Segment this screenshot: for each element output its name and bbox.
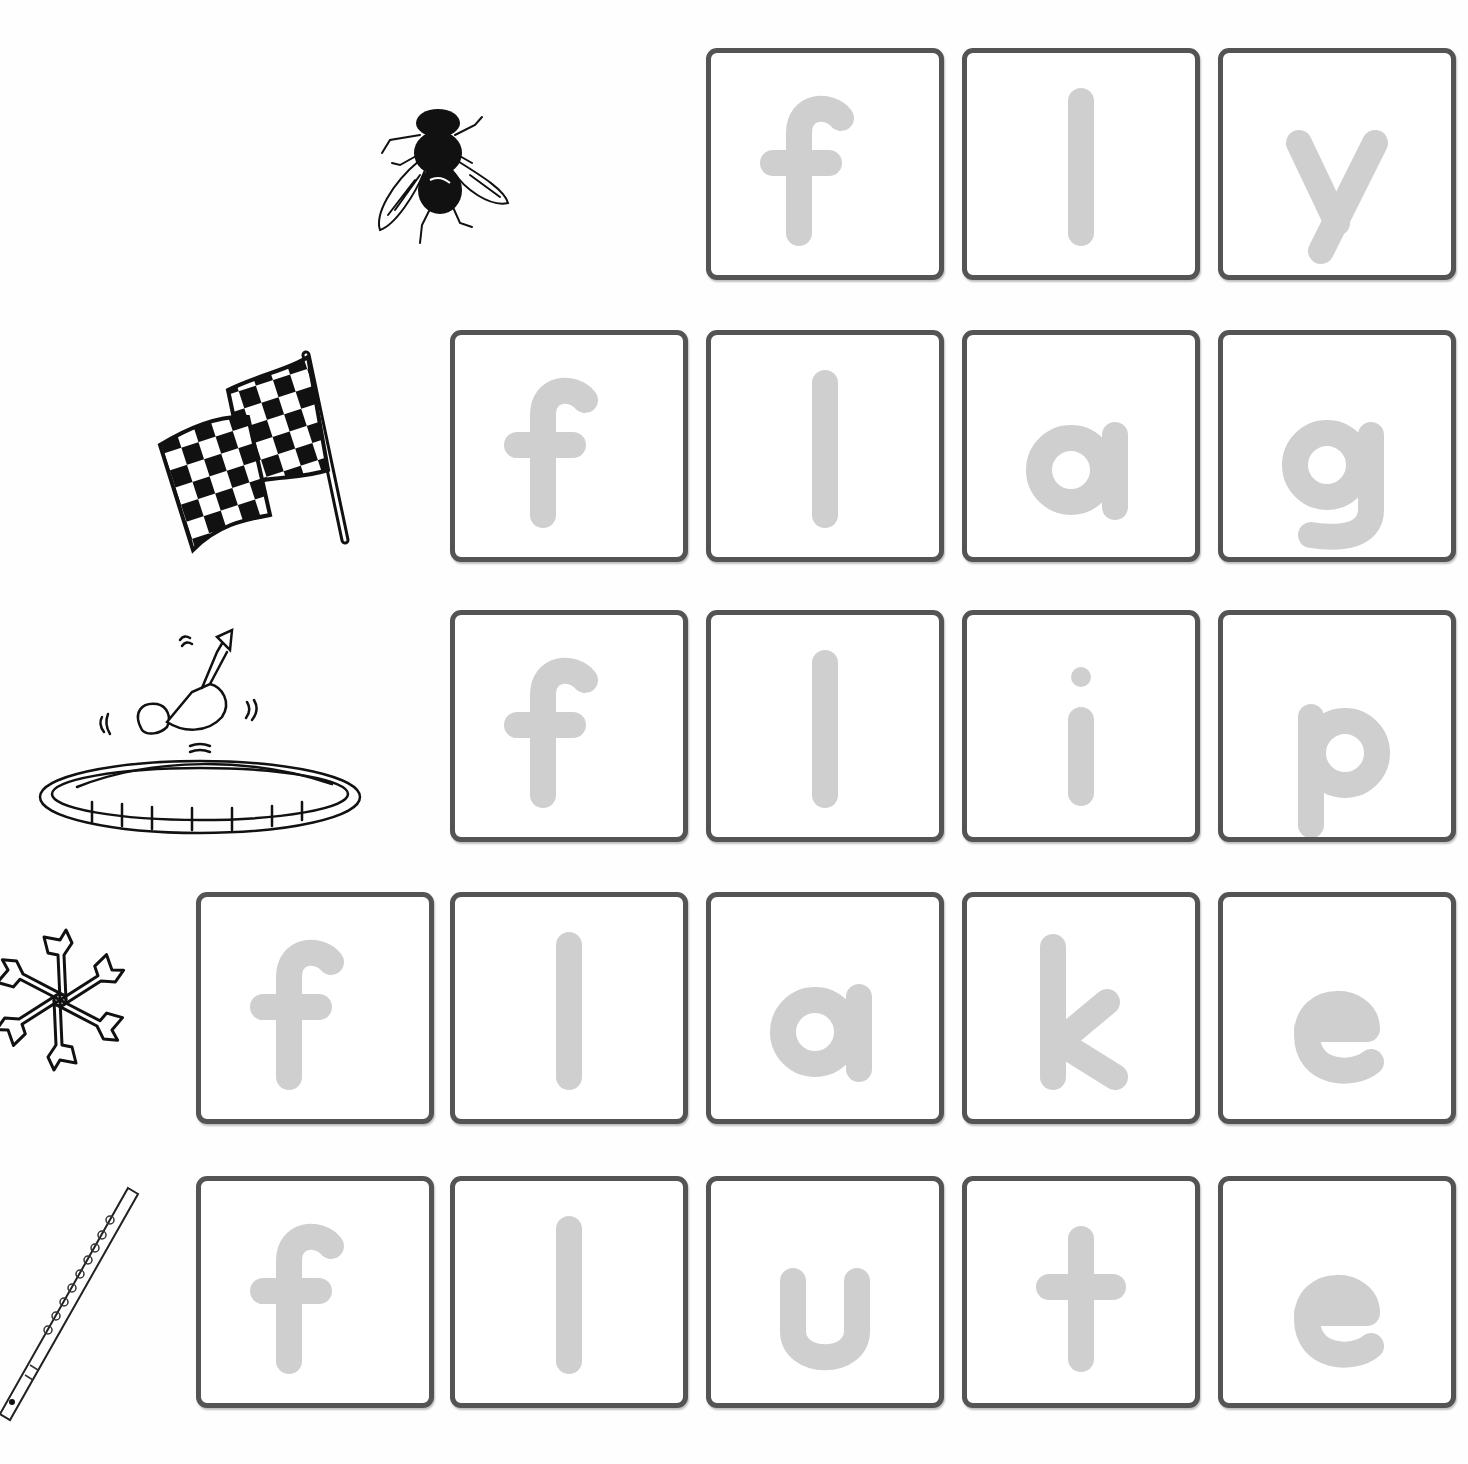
letter-tile-flip-2: l <box>706 610 944 842</box>
checkered-flag-icon <box>148 345 358 555</box>
letter-tile-flag-4: g <box>1218 330 1456 562</box>
fly-picture <box>360 95 515 250</box>
letter-glyph-l <box>711 615 939 837</box>
letter-tile-flute-2: l <box>450 1176 688 1408</box>
letter-glyph-y <box>1223 53 1451 275</box>
letter-tile-flute-1: f <box>196 1176 434 1408</box>
letter-tile-flake-2: l <box>450 892 688 1124</box>
letter-tile-flake-4: k <box>962 892 1200 1124</box>
letter-tile-fly-2: l <box>962 48 1200 280</box>
letter-glyph-i <box>967 615 1195 837</box>
letter-glyph-p <box>1223 615 1451 837</box>
letter-tile-flute-5: e <box>1218 1176 1456 1408</box>
letter-glyph-l <box>967 53 1195 275</box>
letter-glyph-f <box>201 897 429 1119</box>
letter-tile-flip-1: f <box>450 610 688 842</box>
letter-tile-flute-3: u <box>706 1176 944 1408</box>
letter-tile-fly-1: f <box>706 48 944 280</box>
letter-glyph-l <box>455 1181 683 1403</box>
letter-glyph-a <box>967 335 1195 557</box>
letter-tile-fly-3: y <box>1218 48 1456 280</box>
letter-glyph-f <box>201 1181 429 1403</box>
letter-glyph-l <box>455 897 683 1119</box>
fly-icon <box>360 95 515 250</box>
letter-glyph-e <box>1223 1181 1451 1403</box>
flute-icon <box>0 1180 145 1425</box>
letter-glyph-l <box>711 335 939 557</box>
letter-tile-flip-4: p <box>1218 610 1456 842</box>
letter-glyph-k <box>967 897 1195 1119</box>
letter-glyph-g <box>1223 335 1451 557</box>
letter-tile-flag-1: f <box>450 330 688 562</box>
flute-picture <box>0 1180 145 1425</box>
letter-glyph-f <box>455 335 683 557</box>
letter-tile-flute-4: t <box>962 1176 1200 1408</box>
letter-glyph-f <box>711 53 939 275</box>
snowflake-icon <box>0 915 150 1085</box>
trampoline-flip-picture <box>32 622 368 847</box>
letter-tile-flake-5: e <box>1218 892 1456 1124</box>
letter-glyph-u <box>711 1181 939 1403</box>
snowflake-picture <box>0 915 150 1085</box>
worksheet-page: flyflagflipflakeflute <box>0 0 1468 1464</box>
letter-glyph-a <box>711 897 939 1119</box>
trampoline-flip-icon <box>32 622 368 847</box>
letter-glyph-e <box>1223 897 1451 1119</box>
letter-glyph-t <box>967 1181 1195 1403</box>
letter-tile-flip-3: i <box>962 610 1200 842</box>
letter-tile-flag-3: a <box>962 330 1200 562</box>
letter-tile-flag-2: l <box>706 330 944 562</box>
letter-glyph-f <box>455 615 683 837</box>
letter-tile-flake-1: f <box>196 892 434 1124</box>
letter-tile-flake-3: a <box>706 892 944 1124</box>
checkered-flag-picture <box>148 345 358 555</box>
